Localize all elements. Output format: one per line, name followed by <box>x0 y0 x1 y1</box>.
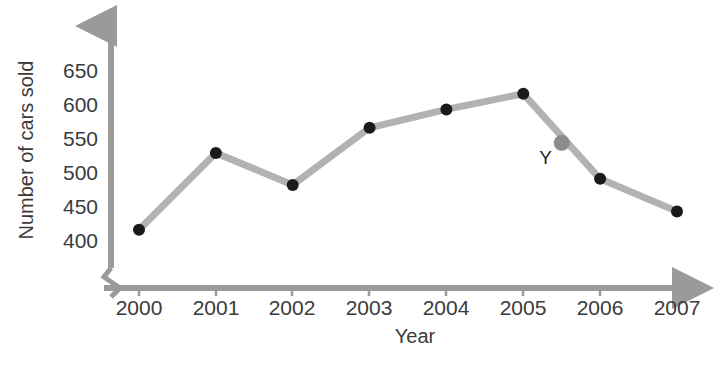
x-tick-label-2006: 2006 <box>577 296 624 319</box>
x-tick-label-2001: 2001 <box>193 296 240 319</box>
line-chart: 650 600 550 500 450 400 2000 2001 2002 2… <box>0 0 728 367</box>
x-tick-label-2004: 2004 <box>423 296 470 319</box>
data-point-2001 <box>210 147 222 159</box>
data-point-2007 <box>671 205 683 217</box>
y-axis-title: Number of cars sold <box>15 61 37 240</box>
data-point-2005 <box>517 88 529 100</box>
x-axis-tick-labels: 2000 2001 2002 2003 2004 2005 2006 2007 <box>116 296 701 319</box>
x-tick-label-2002: 2002 <box>269 296 316 319</box>
y-tick-label-650: 650 <box>63 59 98 82</box>
axis-break-icon <box>104 268 120 297</box>
data-point-2002 <box>287 179 299 191</box>
data-point-2006 <box>594 173 606 185</box>
x-tick-label-2000: 2000 <box>116 296 163 319</box>
data-series-line <box>139 94 677 230</box>
data-point-2004 <box>440 103 452 115</box>
x-tick-label-2005: 2005 <box>500 296 547 319</box>
annotation-label-y: Y <box>539 147 552 168</box>
chart-canvas: 650 600 550 500 450 400 2000 2001 2002 2… <box>0 0 728 367</box>
x-tick-label-2007: 2007 <box>654 296 701 319</box>
annotation-marker-y <box>554 135 570 151</box>
y-axis-tick-labels: 650 600 550 500 450 400 <box>63 59 98 252</box>
y-tick-label-400: 400 <box>63 229 98 252</box>
data-point-markers <box>133 88 683 236</box>
y-tick-label-550: 550 <box>63 127 98 150</box>
y-tick-label-600: 600 <box>63 93 98 116</box>
data-point-2003 <box>364 122 376 134</box>
y-tick-label-450: 450 <box>63 195 98 218</box>
data-point-2000 <box>133 224 145 236</box>
y-tick-label-500: 500 <box>63 161 98 184</box>
x-axis-title: Year <box>395 325 436 347</box>
x-tick-label-2003: 2003 <box>346 296 393 319</box>
